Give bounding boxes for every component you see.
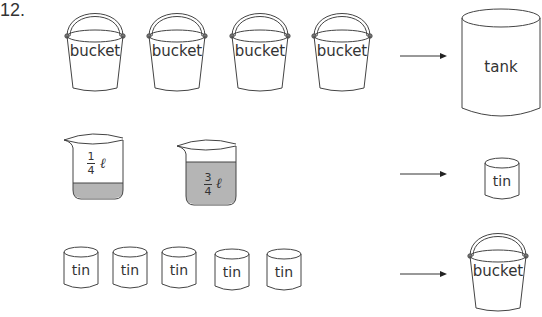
tin-label: tin — [62, 262, 100, 278]
tank-label: tank — [460, 58, 542, 76]
litre-unit: ℓ — [100, 155, 106, 172]
fraction: 1 4 — [85, 151, 97, 176]
fraction: 3 4 — [202, 172, 214, 197]
bucket-label: bucket — [145, 42, 209, 60]
bucket-label: bucket — [466, 262, 530, 280]
bucket-label: bucket — [310, 42, 374, 60]
question-number: 12. — [0, 0, 25, 21]
arrow-right-icon — [400, 270, 448, 278]
tin-label: tin — [213, 264, 251, 280]
tin-label: tin — [160, 262, 198, 278]
litre-unit: ℓ — [216, 175, 222, 192]
arrow-right-icon — [400, 170, 448, 178]
bucket-label: bucket — [228, 42, 292, 60]
arrow-right-icon — [400, 52, 448, 60]
tin-label: tin — [483, 173, 521, 189]
bucket-label: bucket — [63, 42, 127, 60]
tin-label: tin — [111, 262, 149, 278]
tin-label: tin — [265, 264, 303, 280]
